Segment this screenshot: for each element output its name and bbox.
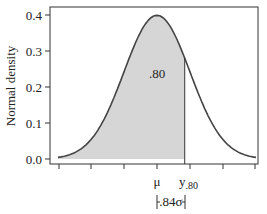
y-tick-label: 0.1 bbox=[26, 116, 42, 131]
y-axis-title: Normal density bbox=[3, 45, 18, 126]
y-tick-label: 0.2 bbox=[26, 80, 42, 95]
distance-label: .84σ bbox=[159, 194, 182, 209]
y-tick-label: 0.3 bbox=[26, 44, 42, 59]
y-axis: 0.00.10.20.30.4 bbox=[26, 8, 50, 167]
mu-label: μ bbox=[154, 174, 161, 189]
shaded-area-80-percent bbox=[58, 15, 185, 159]
y80-label: y.80 bbox=[179, 174, 198, 191]
y-tick-label: 0.0 bbox=[26, 152, 42, 167]
y80-label-subscript: .80 bbox=[186, 180, 199, 191]
shaded-area-label: .80 bbox=[149, 66, 165, 81]
normal-density-chart: 0.00.10.20.30.4 Normal density .80 μ y.8… bbox=[0, 0, 267, 214]
y-tick-label: 0.4 bbox=[26, 8, 43, 23]
x-axis bbox=[59, 164, 255, 169]
